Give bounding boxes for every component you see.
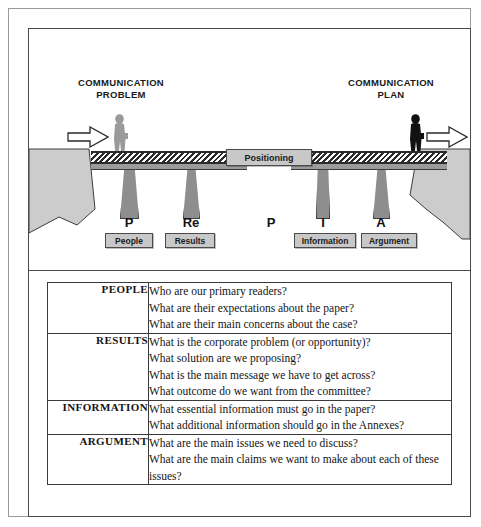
arrow-right-outline-right <box>426 126 468 148</box>
question-line: What outcome do we want from the committ… <box>149 383 451 400</box>
letter-a-argument: A <box>361 215 401 230</box>
question-line: What essential information must go in th… <box>149 401 451 418</box>
person-silhouette-gray <box>110 113 130 153</box>
question-line: What is the corporate problem (or opport… <box>149 334 451 351</box>
pier-information <box>316 169 330 219</box>
bridge-truss-left <box>91 151 247 164</box>
row-questions-people: Who are our primary readers? What are th… <box>149 283 452 334</box>
question-line: What are their main concerns about the c… <box>149 316 451 333</box>
table-row: PEOPLE Who are our primary readers? What… <box>48 283 452 334</box>
bridge-roadbed-left <box>91 164 247 170</box>
heading-communication-problem: COMMUNICATION PROBLEM <box>51 77 191 101</box>
badge-information: Information <box>294 233 356 248</box>
letter-p-people: P <box>109 215 149 230</box>
table-row: RESULTS What is the corporate problem (o… <box>48 333 452 400</box>
person-silhouette-black <box>406 113 426 153</box>
pier-argument <box>373 169 390 219</box>
row-label-results: RESULTS <box>48 333 149 400</box>
badge-people: People <box>105 233 153 248</box>
bridge-diagram-panel: COMMUNICATION PROBLEM COMMUNICATION PLAN <box>29 29 470 271</box>
table-row: ARGUMENT What are the main issues we nee… <box>48 434 452 485</box>
question-line: What is the main message we have to get … <box>149 367 451 384</box>
question-line: Who are our primary readers? <box>149 283 451 300</box>
inner-frame: COMMUNICATION PROBLEM COMMUNICATION PLAN <box>28 28 471 517</box>
question-line: What are the main issues we need to disc… <box>149 435 451 452</box>
bridge-roadbed-right <box>291 164 447 170</box>
question-line: What additional information should go in… <box>149 417 451 434</box>
letter-re-results: Re <box>171 215 211 230</box>
bridge-truss-right <box>291 151 447 164</box>
heading-communication-plan: COMMUNICATION PLAN <box>321 77 461 101</box>
row-questions-argument: What are the main issues we need to disc… <box>149 434 452 485</box>
positioning-badge: Positioning <box>226 149 312 166</box>
table-row: INFORMATION What essential information m… <box>48 400 452 434</box>
row-label-information: INFORMATION <box>48 400 149 434</box>
question-table: PEOPLE Who are our primary readers? What… <box>47 282 452 485</box>
question-line: What are their expectations about the pa… <box>149 300 451 317</box>
row-questions-results: What is the corporate problem (or opport… <box>149 333 452 400</box>
badge-results: Results <box>165 233 215 248</box>
row-questions-information: What essential information must go in th… <box>149 400 452 434</box>
letter-i-information: I <box>303 215 343 230</box>
cliff-left <box>29 147 99 252</box>
row-label-argument: ARGUMENT <box>48 434 149 485</box>
badge-argument: Argument <box>361 233 417 248</box>
outer-frame: COMMUNICATION PROBLEM COMMUNICATION PLAN <box>8 8 471 517</box>
pier-results <box>183 169 200 219</box>
arrow-right-outline-left <box>67 126 109 148</box>
row-label-people: PEOPLE <box>48 283 149 334</box>
pier-people <box>120 169 139 219</box>
question-line: What solution are we proposing? <box>149 350 451 367</box>
letter-p-positioning: P <box>251 215 291 230</box>
question-line: What are the main claims we want to make… <box>149 451 451 484</box>
